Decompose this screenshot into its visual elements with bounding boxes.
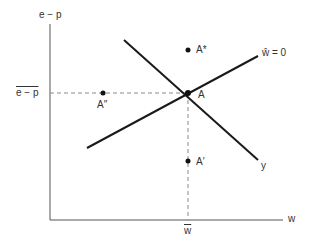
x-tick-label: w <box>184 226 191 236</box>
diagram-canvas <box>0 0 311 243</box>
w-dot-zero-label: ŵ = 0 <box>262 48 286 58</box>
point-A <box>185 90 191 96</box>
y-tick-label: e − p <box>16 88 39 98</box>
w-dot-zero-line <box>87 56 258 148</box>
point-A-double-prime <box>101 91 106 96</box>
point-A-prime <box>186 159 191 164</box>
label-A-double-prime: A″ <box>97 100 107 110</box>
label-A-prime: A′ <box>196 157 205 167</box>
point-A-star <box>186 48 191 53</box>
label-A: A <box>198 90 205 100</box>
label-A-star: A* <box>196 45 207 55</box>
y-axis-label: e − p <box>39 10 62 20</box>
x-axis-label: w <box>288 214 295 224</box>
y-line <box>124 40 258 160</box>
y-line-label: y <box>261 161 266 171</box>
